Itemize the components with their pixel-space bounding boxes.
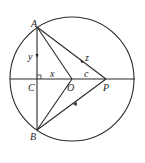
diagram-canvas: A B C O P y x c z	[0, 0, 145, 163]
label-c: C	[28, 82, 35, 93]
label-c-segment: c	[84, 68, 89, 79]
right-angle-marker	[37, 75, 41, 79]
segment-ao	[37, 27, 72, 79]
label-y: y	[27, 51, 33, 62]
label-o: O	[67, 82, 74, 93]
label-z: z	[84, 52, 89, 63]
arrow-ac	[36, 54, 39, 58]
geometry-diagram: A B C O P y x c z	[0, 0, 145, 163]
label-p: P	[102, 82, 109, 93]
label-b: B	[30, 131, 36, 142]
label-a: A	[30, 18, 38, 29]
segment-ap	[37, 27, 106, 79]
label-x: x	[49, 68, 55, 79]
